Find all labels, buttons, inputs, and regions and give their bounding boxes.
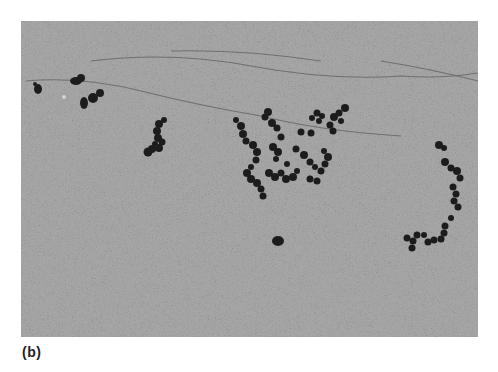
micrograph-image xyxy=(21,21,478,337)
figure-panel: (b) xyxy=(0,0,498,372)
panel-label: (b) xyxy=(22,344,41,360)
micrograph-svg xyxy=(21,21,478,337)
isolated-particle xyxy=(272,236,284,246)
